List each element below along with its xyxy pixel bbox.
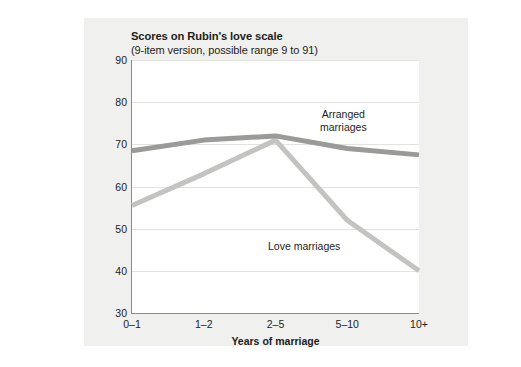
annotation-arranged-line2: marriages — [320, 121, 367, 134]
y-tick-label-70: 70 — [115, 138, 127, 150]
chart-title: Scores on Rubin's love scale — [131, 30, 283, 42]
x-tick-label-2: 2–5 — [267, 318, 285, 330]
x-axis-title: Years of marriage — [231, 335, 319, 347]
x-tick-label-0: 0–1 — [123, 318, 141, 330]
chart-subtitle: (9-item version, possible range 9 to 91) — [131, 44, 318, 56]
x-tick-label-1: 1–2 — [195, 318, 213, 330]
y-tick-label-60: 60 — [115, 181, 127, 193]
annotation-arranged-marriages: Arranged marriages — [320, 108, 367, 134]
series-lines — [132, 60, 419, 313]
y-tick-label-80: 80 — [115, 96, 127, 108]
plot-area: 30405060708090 0–11–22–55–1010+ Arranged… — [131, 60, 419, 314]
annotation-love-marriages: Love marriages — [268, 240, 340, 253]
y-tick-label-40: 40 — [115, 265, 127, 277]
annotation-arranged-line1: Arranged — [320, 108, 367, 121]
x-tick-label-3: 5–10 — [336, 318, 359, 330]
y-tick-label-50: 50 — [115, 223, 127, 235]
y-tick-label-90: 90 — [115, 54, 127, 66]
figure-inner: Scores on Rubin's love scale (9-item ver… — [84, 18, 468, 346]
x-tick-label-4: 10+ — [410, 318, 428, 330]
figure-panel: Scores on Rubin's love scale (9-item ver… — [84, 18, 468, 346]
